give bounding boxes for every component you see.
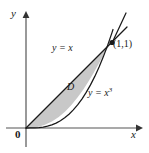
point-label-1-1: (1,1) bbox=[113, 39, 132, 49]
curve-label-cubic-exponent: 3 bbox=[109, 86, 113, 94]
curve-label-cubic: y = x3 bbox=[88, 87, 112, 98]
plot-area bbox=[0, 0, 149, 153]
axis-label-x: x bbox=[131, 129, 136, 140]
region-label-d: D bbox=[67, 82, 74, 92]
origin-label: 0 bbox=[15, 129, 21, 140]
curve-label-line: y = x bbox=[52, 43, 73, 53]
axis-label-y: y bbox=[11, 8, 16, 19]
x-axis-arrowhead bbox=[136, 125, 143, 132]
graph-figure: y x 0 y = x y = x3 D (1,1) bbox=[0, 0, 149, 153]
y-axis-arrowhead bbox=[23, 11, 30, 18]
curve-label-cubic-base: y = x bbox=[88, 87, 109, 98]
